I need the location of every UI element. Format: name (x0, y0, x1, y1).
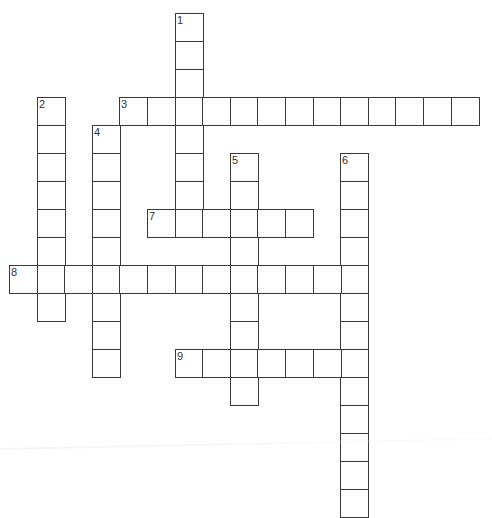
crossword-cell[interactable] (175, 181, 204, 210)
crossword-cell[interactable] (340, 265, 369, 294)
crossword-cell[interactable] (230, 97, 259, 126)
crossword-cell[interactable]: 8 (9, 265, 38, 294)
crossword-cell[interactable] (368, 97, 397, 126)
crossword-cell[interactable]: 5 (230, 153, 259, 182)
crossword-cell[interactable] (202, 265, 231, 294)
crossword-cell[interactable] (285, 209, 314, 238)
crossword-cell[interactable] (395, 97, 424, 126)
crossword-cell[interactable] (340, 377, 369, 406)
crossword-cell[interactable] (92, 209, 121, 238)
crossword-cell[interactable] (230, 349, 259, 378)
crossword-cell[interactable] (285, 97, 314, 126)
crossword-cell[interactable] (37, 125, 66, 154)
crossword-cell[interactable] (285, 349, 314, 378)
crossword-cell[interactable] (202, 209, 231, 238)
crossword-cell[interactable] (340, 97, 369, 126)
crossword-cell[interactable] (175, 69, 204, 98)
crossword-cell[interactable] (230, 265, 259, 294)
crossword-cell[interactable] (37, 209, 66, 238)
crossword-cell[interactable] (92, 321, 121, 350)
clue-number: 7 (149, 210, 155, 222)
crossword-cell[interactable] (257, 265, 286, 294)
crossword-cell[interactable]: 7 (147, 209, 176, 238)
crossword-cell[interactable] (202, 97, 231, 126)
crossword-cell[interactable] (340, 293, 369, 322)
crossword-cell[interactable] (37, 265, 66, 294)
crossword-cell[interactable] (175, 153, 204, 182)
crossword-cell[interactable]: 3 (119, 97, 148, 126)
crossword-cell[interactable] (175, 125, 204, 154)
clue-number: 1 (177, 14, 183, 26)
clue-number: 3 (121, 98, 127, 110)
crossword-cell[interactable] (340, 433, 369, 462)
clue-number: 2 (39, 98, 45, 110)
crossword-cell[interactable] (257, 209, 286, 238)
crossword-cell[interactable] (147, 97, 176, 126)
crossword-cell[interactable] (230, 293, 259, 322)
crossword-cell[interactable] (230, 377, 259, 406)
clue-number: 6 (342, 154, 348, 166)
crossword-cell[interactable] (451, 97, 480, 126)
crossword-cell[interactable] (230, 209, 259, 238)
crossword-cell[interactable] (147, 265, 176, 294)
clue-number: 9 (177, 350, 183, 362)
crossword-cell[interactable] (202, 349, 231, 378)
crossword-cell[interactable]: 4 (92, 125, 121, 154)
crossword-cell[interactable]: 9 (175, 349, 204, 378)
crossword-cell[interactable] (230, 181, 259, 210)
crossword-cell[interactable] (340, 321, 369, 350)
crossword-cell[interactable] (92, 153, 121, 182)
crossword-cell[interactable] (92, 349, 121, 378)
crossword-cell[interactable] (340, 461, 369, 490)
crossword-cell[interactable] (64, 265, 93, 294)
crossword-cell[interactable] (175, 97, 204, 126)
crossword-cell[interactable] (340, 489, 369, 518)
crossword-cell[interactable] (340, 237, 369, 266)
crossword-cell[interactable] (92, 237, 121, 266)
crossword-cell[interactable] (175, 265, 204, 294)
crossword-cell[interactable] (313, 265, 342, 294)
crossword-cell[interactable] (230, 321, 259, 350)
crossword-cell[interactable] (340, 349, 369, 378)
crossword-cell[interactable] (257, 349, 286, 378)
crossword-cell[interactable] (92, 293, 121, 322)
crossword-cell[interactable] (313, 349, 342, 378)
crossword-cell[interactable] (340, 209, 369, 238)
crossword-cell[interactable] (92, 181, 121, 210)
crossword-cell[interactable] (92, 265, 121, 294)
crossword-cell[interactable]: 1 (175, 13, 204, 42)
clue-number: 8 (11, 266, 17, 278)
crossword-cell[interactable] (175, 209, 204, 238)
crossword-cell[interactable]: 2 (37, 97, 66, 126)
crossword-cell[interactable] (340, 181, 369, 210)
crossword-cell[interactable] (119, 265, 148, 294)
crossword-cell[interactable] (340, 405, 369, 434)
crossword-cell[interactable] (37, 153, 66, 182)
clue-number: 5 (232, 154, 238, 166)
crossword-cell[interactable] (37, 293, 66, 322)
crossword-cell[interactable] (175, 41, 204, 70)
crossword-cell[interactable]: 6 (340, 153, 369, 182)
crossword-cell[interactable] (313, 97, 342, 126)
crossword-cell[interactable] (257, 97, 286, 126)
crossword-cell[interactable] (423, 97, 452, 126)
crossword-cell[interactable] (37, 237, 66, 266)
crossword-cell[interactable] (230, 237, 259, 266)
clue-number: 4 (94, 126, 100, 138)
crossword-cell[interactable] (37, 181, 66, 210)
crossword-cell[interactable] (285, 265, 314, 294)
